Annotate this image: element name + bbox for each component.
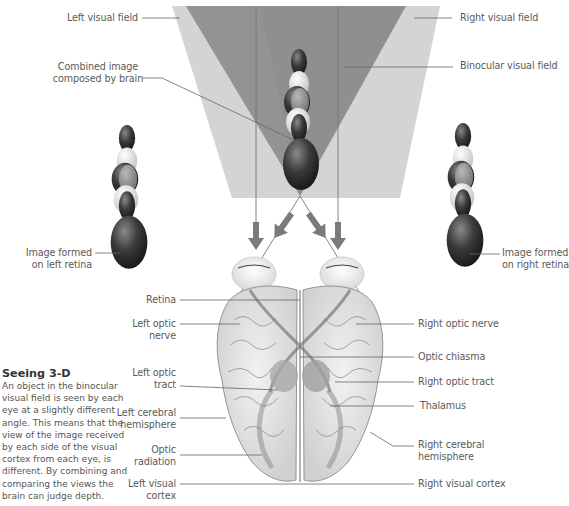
caption-box: Seeing 3-D An object in the binocular vi… — [2, 367, 132, 502]
label-image-left-retina: Image formed on left retina — [10, 247, 92, 271]
caption-title: Seeing 3-D — [2, 367, 132, 380]
brain — [217, 286, 383, 482]
label-right-visual-field: Right visual field — [460, 12, 538, 24]
label-combined-image: Combined image composed by brain — [52, 61, 144, 85]
label-right-optic-nerve: Right optic nerve — [418, 318, 499, 330]
left-retina-image-figure — [111, 125, 148, 269]
label-binocular-visual-field: Binocular visual field — [460, 60, 558, 72]
label-right-optic-tract: Right optic tract — [418, 376, 494, 388]
label-image-right-retina: Image formed on right retina — [502, 247, 569, 271]
label-right-visual-cortex: Right visual cortex — [418, 478, 506, 490]
label-left-optic-nerve: Left optic nerve — [100, 318, 176, 342]
label-optic-chiasma: Optic chiasma — [418, 351, 485, 363]
arrows — [248, 209, 346, 250]
label-right-cerebral-hemisphere: Right cerebral hemisphere — [418, 439, 484, 463]
label-thalamus: Thalamus — [420, 400, 466, 412]
eyes — [232, 257, 364, 291]
right-retina-image-figure — [447, 123, 484, 267]
label-retina: Retina — [100, 294, 176, 306]
label-left-visual-field: Left visual field — [40, 12, 138, 24]
caption-body: An object in the binocular visual field … — [2, 380, 132, 502]
